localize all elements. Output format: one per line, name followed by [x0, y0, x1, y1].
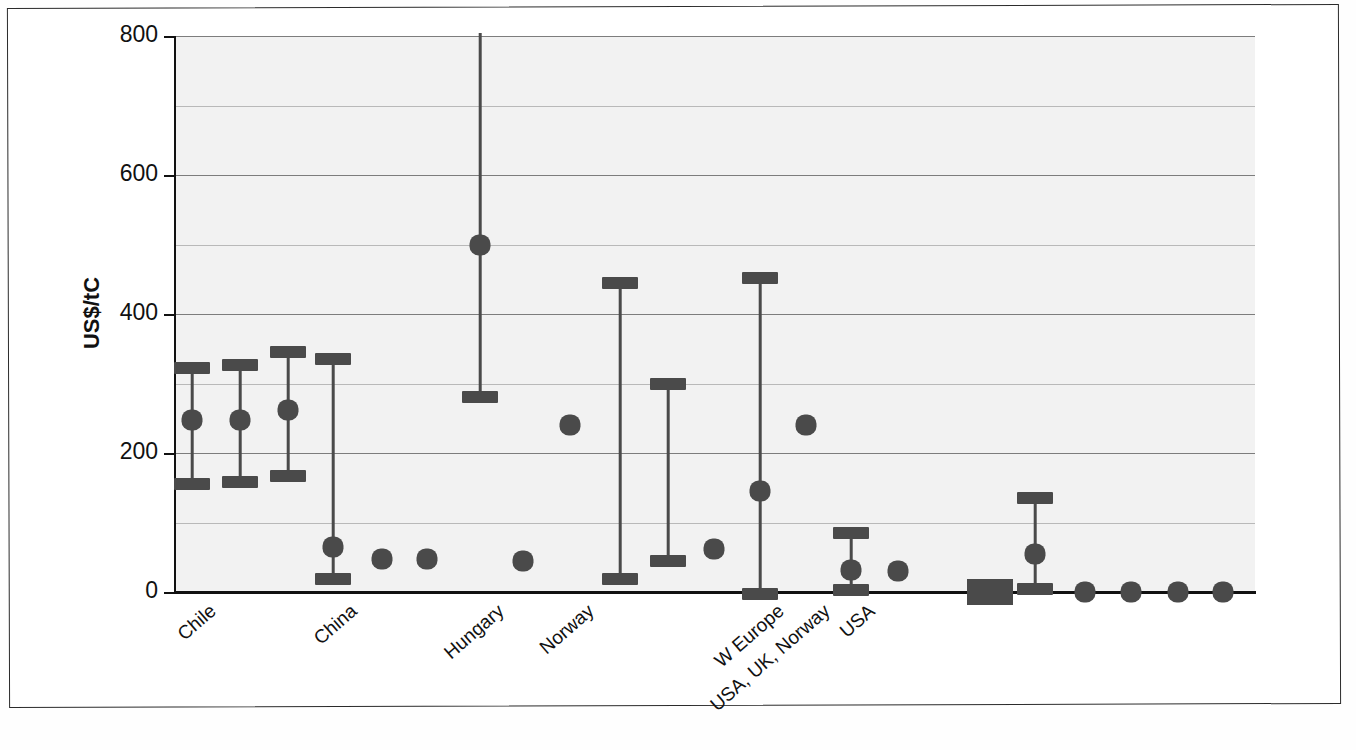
data-point-marker — [278, 399, 299, 420]
error-bar-cap-upper — [315, 353, 351, 365]
y-axis-tick-label: 200 — [98, 438, 158, 465]
y-axis-tick — [164, 175, 175, 177]
x-axis-tick-label: Hungary — [440, 600, 509, 664]
y-axis-tick — [164, 453, 175, 455]
x-axis-tick-label: China — [310, 600, 362, 649]
gridline-major — [175, 36, 1255, 37]
error-bar-cap-upper — [222, 359, 258, 371]
y-axis-tick-label: 800 — [98, 21, 158, 48]
gridline-minor — [175, 384, 1255, 385]
data-point-marker — [1213, 582, 1234, 603]
error-bar-line — [479, 33, 482, 397]
error-bar-cap-lower — [1017, 583, 1053, 595]
error-bar-cap-upper — [270, 346, 306, 358]
gridline-major — [175, 175, 1255, 176]
data-point-marker — [1075, 582, 1096, 603]
gridline-major — [175, 314, 1255, 315]
data-point-marker — [513, 550, 534, 571]
y-axis-tick — [164, 314, 175, 316]
y-axis-tick-label: 600 — [98, 160, 158, 187]
data-point-marker — [750, 481, 771, 502]
data-point-marker — [470, 234, 491, 255]
data-point-marker — [841, 559, 862, 580]
x-axis-tick-label: Norway — [535, 600, 598, 659]
error-bar-cap-upper — [174, 362, 210, 374]
error-bar-cap-lower — [462, 391, 498, 403]
error-bar-line — [667, 384, 670, 561]
data-point-marker — [704, 538, 725, 559]
y-axis-tick-label: 0 — [98, 577, 158, 604]
data-point-marker — [182, 410, 203, 431]
y-tick-labels: US$/tC 8006004002000 — [90, 0, 158, 750]
gridline-minor — [175, 523, 1255, 524]
error-bar-line — [759, 278, 762, 594]
scatter-chart: US$/tC 8006004002000 ChileChinaHungaryNo… — [0, 0, 1356, 750]
error-bar-cap-upper — [602, 277, 638, 289]
error-bar-cap-lower — [222, 476, 258, 488]
error-bar-cap-lower — [315, 573, 351, 585]
x-axis-tick-label: Chile — [173, 600, 220, 645]
y-axis-tick — [164, 36, 175, 38]
data-point-marker — [417, 549, 438, 570]
chart-page: US$/tC 8006004002000 ChileChinaHungaryNo… — [0, 0, 1356, 750]
data-point-marker — [888, 561, 909, 582]
error-bar-cap-lower — [742, 588, 778, 600]
error-bar-cap-lower — [833, 584, 869, 596]
y-axis-tick-label: 400 — [98, 299, 158, 326]
plot-area — [175, 36, 1255, 592]
error-bar-cap-lower — [270, 470, 306, 482]
data-point-marker — [1025, 543, 1046, 564]
error-bar-cap-upper — [650, 378, 686, 390]
data-point-marker — [1121, 582, 1142, 603]
gridline-major — [175, 453, 1255, 454]
data-point-marker — [560, 415, 581, 436]
error-bar-cap-upper — [1017, 492, 1053, 504]
error-bar-cap-lower — [602, 573, 638, 585]
data-point-marker — [372, 549, 393, 570]
x-axis-tick-label: USA — [836, 600, 880, 642]
data-point-marker — [323, 536, 344, 557]
y-axis-tick — [164, 592, 175, 594]
gridline-minor — [175, 106, 1255, 107]
data-point-marker — [1168, 582, 1189, 603]
gridline-minor — [175, 245, 1255, 246]
data-point-marker — [230, 409, 251, 430]
error-bar-line — [619, 283, 622, 580]
error-bar-cap-upper — [742, 272, 778, 284]
error-bar-cap-lower — [174, 478, 210, 490]
data-point-marker — [796, 415, 817, 436]
data-marker-block — [967, 579, 1013, 605]
error-bar-cap-lower — [650, 555, 686, 567]
error-bar-cap-upper — [833, 527, 869, 539]
